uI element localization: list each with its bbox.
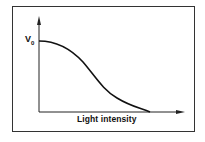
response-curve xyxy=(39,41,150,112)
y-axis-label: V0 xyxy=(25,34,34,46)
y-axis-arrow-icon xyxy=(37,16,41,25)
x-axis-label: Light intensity xyxy=(77,114,137,124)
x-axis-arrow-icon xyxy=(176,110,185,114)
